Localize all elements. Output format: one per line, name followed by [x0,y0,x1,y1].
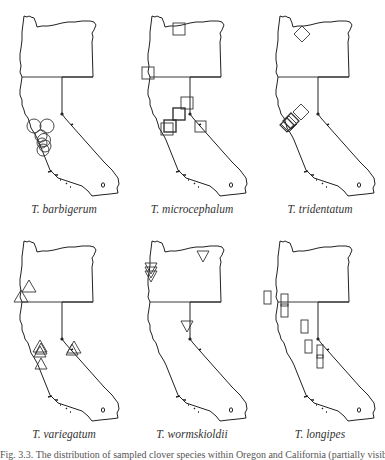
map-outline [128,0,256,200]
triangle-up-markers [14,280,81,369]
map-outline [128,225,256,425]
map-outline [256,225,384,425]
map-outline [0,0,128,200]
map-panel-wormskioldii: T. wormskioldii [128,225,256,450]
rectangle-markers [264,291,323,368]
map-panel-longipes: T. longipes [256,225,384,450]
map-outline [256,0,384,200]
diamond-markers [280,26,310,132]
square-markers [142,23,206,135]
map-panel-variegatum: T. variegatum [0,225,128,450]
species-label: T. microcephalum [128,203,256,215]
species-label: T. longipes [256,428,384,440]
figure-caption: Fig. 3.3. The distribution of sampled cl… [0,449,385,460]
species-label: T. tridentatum [256,203,384,215]
circle-markers [27,119,54,156]
map-outline [0,225,128,425]
map-panel-tridentatum: T. tridentatum [256,0,384,225]
map-panel-microcephalum: T. microcephalum [128,0,256,225]
species-label: T. barbigerum [0,203,128,215]
species-label: T. variegatum [0,428,128,440]
map-panel-barbigerum: T. barbigerum [0,0,128,225]
species-label: T. wormskioldii [128,428,256,440]
triangle-down-markers [145,251,209,332]
